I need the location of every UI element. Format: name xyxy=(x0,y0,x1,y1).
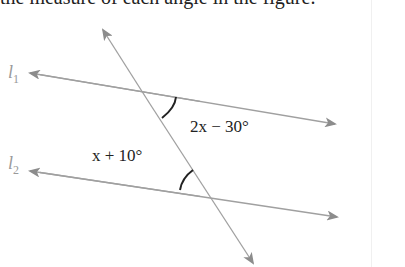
label-l1: l1 xyxy=(8,62,19,87)
angle-label-bottom: x + 10° xyxy=(92,146,142,166)
angle-label-top: 2x − 30° xyxy=(190,117,249,137)
angle-arc-top xyxy=(162,97,176,118)
label-l2: l2 xyxy=(8,153,19,178)
angle-arc-bottom xyxy=(180,170,193,190)
